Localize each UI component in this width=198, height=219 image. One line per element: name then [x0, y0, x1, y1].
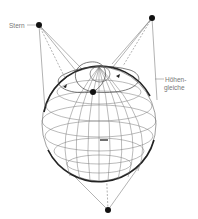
- star-bottom: [105, 207, 111, 213]
- circle-label-line1: Höhen-: [165, 76, 186, 83]
- celestial-navigation-diagram: [0, 0, 198, 219]
- substellar-point: [90, 89, 96, 95]
- star-top-left: [36, 22, 42, 28]
- star-top-right: [149, 15, 155, 21]
- globe: [42, 62, 156, 182]
- star-label: Stern: [9, 22, 25, 29]
- circle-label-line2: gleiche: [164, 84, 185, 91]
